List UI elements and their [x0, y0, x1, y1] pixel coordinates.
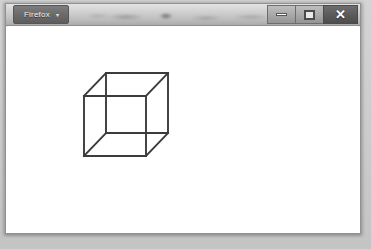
- titlebar-drag-region[interactable]: [69, 4, 267, 25]
- cube-connector-edge-3: [84, 133, 106, 156]
- browser-window: Firefox ▾ ✕: [5, 3, 361, 234]
- close-icon: ✕: [335, 8, 346, 21]
- minimize-button[interactable]: [267, 5, 295, 24]
- cube-edges: [84, 73, 168, 156]
- chevron-down-icon: ▾: [56, 12, 59, 18]
- minimize-icon: [276, 13, 287, 16]
- wireframe-cube-drawing: [6, 27, 360, 233]
- window-controls: ✕: [267, 5, 358, 24]
- firefox-app-menu-button[interactable]: Firefox ▾: [13, 5, 69, 24]
- cube-connector-edge-0: [84, 73, 106, 96]
- window-titlebar[interactable]: Firefox ▾ ✕: [6, 4, 360, 26]
- cube-connector-edge-1: [146, 73, 168, 96]
- close-button[interactable]: ✕: [323, 5, 358, 24]
- firefox-app-menu-label: Firefox: [24, 10, 50, 19]
- cube-connector-edge-2: [146, 133, 168, 156]
- maximize-button[interactable]: [295, 5, 323, 24]
- page-content-area[interactable]: [6, 27, 360, 233]
- desktop-backdrop: Firefox ▾ ✕: [0, 0, 371, 249]
- maximize-icon: [304, 10, 315, 20]
